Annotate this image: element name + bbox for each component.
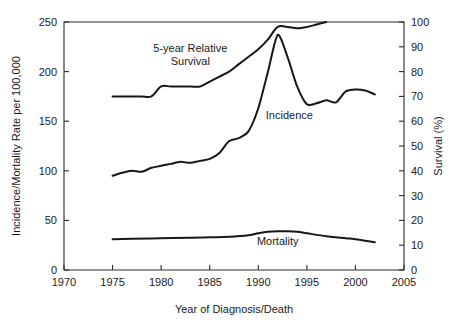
data-series-group (113, 22, 375, 242)
series-annotation-incidence: Incidence (266, 109, 313, 121)
y-right-tick-label: 10 (411, 239, 423, 251)
y-left-tick-label: 0 (51, 264, 57, 276)
series-annotation-5-year-relative-survival-line2: Survival (171, 55, 210, 67)
x-tick-label: 1985 (197, 276, 221, 288)
y-right-tick-label: 0 (411, 264, 417, 276)
y-left-tick-label: 200 (39, 66, 57, 78)
y-left-tick-label: 250 (39, 16, 57, 28)
x-tick-label: 1975 (100, 276, 124, 288)
series-line-5-year-relative-survival (113, 22, 327, 97)
x-tick-label: 2000 (343, 276, 367, 288)
x-axis-title: Year of Diagnosis/Death (175, 303, 293, 315)
y-right-tick-label: 60 (411, 115, 423, 127)
x-tick-label: 1990 (246, 276, 270, 288)
x-tick-label: 1980 (149, 276, 173, 288)
y-left-tick-label: 150 (39, 115, 57, 127)
series-line-incidence (113, 35, 375, 176)
y-right-tick-label: 90 (411, 41, 423, 53)
y-right-tick-label: 70 (411, 90, 423, 102)
x-tick-label: 1970 (52, 276, 76, 288)
x-tick-label: 1995 (295, 276, 319, 288)
y-right-tick-label: 80 (411, 66, 423, 78)
x-tick-label: 2005 (392, 276, 416, 288)
chart-canvas: 050100150200250 0102030405060708090100 1… (0, 0, 455, 320)
series-annotation-group: IncidenceMortality5-year RelativeSurviva… (153, 42, 313, 247)
series-line-mortality (113, 231, 375, 242)
y-right-tick-label: 20 (411, 214, 423, 226)
axis-frame (64, 22, 404, 270)
y-right-axis-title: Survival (%) (432, 116, 444, 175)
series-annotation-5-year-relative-survival: 5-year Relative (153, 42, 227, 54)
y-right-tick-label: 50 (411, 140, 423, 152)
y-left-tick-label: 100 (39, 165, 57, 177)
y-left-tick-label: 50 (45, 214, 57, 226)
y-left-axis-title: Incidence/Mortality Rate per 100,000 (10, 56, 22, 236)
y-right-tick-label: 30 (411, 190, 423, 202)
y-right-tick-label: 100 (411, 16, 429, 28)
y-right-tick-label: 40 (411, 165, 423, 177)
chart-figure: 050100150200250 0102030405060708090100 1… (0, 0, 455, 320)
plot-frame (64, 22, 404, 270)
x-tick-group: 19701975198019851990199520002005 (52, 265, 416, 288)
series-annotation-mortality: Mortality (257, 235, 299, 247)
